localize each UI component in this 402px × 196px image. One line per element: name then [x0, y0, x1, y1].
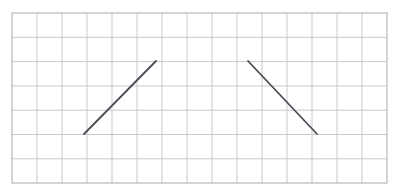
grid-vertical-lines: [37, 13, 362, 183]
right-falling-segment: [248, 61, 317, 134]
grid-figure: [0, 0, 402, 196]
left-rising-segment: [84, 61, 156, 134]
grid-horizontal-lines: [12, 37, 387, 159]
grid-border: [12, 13, 387, 183]
figure-canvas: [0, 0, 402, 196]
line-segments: [84, 61, 317, 134]
